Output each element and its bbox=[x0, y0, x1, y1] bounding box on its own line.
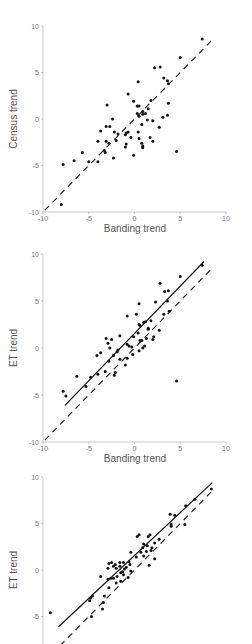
data-point bbox=[173, 514, 176, 517]
data-point bbox=[89, 596, 92, 599]
data-point bbox=[158, 538, 161, 541]
scatter-plot-et-vs-banding-2: ET trend 1050-5 bbox=[0, 0, 252, 644]
data-point bbox=[129, 569, 132, 572]
data-point bbox=[149, 533, 152, 536]
y-tick-label: 5 bbox=[35, 520, 39, 527]
data-point bbox=[115, 582, 118, 585]
data-point bbox=[90, 615, 93, 618]
data-point bbox=[150, 546, 153, 549]
data-point bbox=[139, 551, 142, 554]
data-point bbox=[110, 561, 113, 564]
data-point bbox=[109, 577, 112, 580]
data-point bbox=[106, 567, 109, 570]
one-to-one-dashed-line bbox=[45, 491, 212, 644]
data-point bbox=[128, 563, 131, 566]
data-point bbox=[141, 546, 144, 549]
data-point bbox=[148, 564, 151, 567]
data-point bbox=[115, 567, 118, 570]
data-point bbox=[118, 561, 121, 564]
data-point bbox=[153, 542, 156, 545]
data-point bbox=[119, 580, 122, 583]
data-point bbox=[107, 586, 110, 589]
data-point bbox=[99, 575, 102, 578]
data-point bbox=[184, 504, 187, 507]
data-point bbox=[153, 557, 156, 560]
y-tick-label: 10 bbox=[31, 474, 39, 481]
data-point bbox=[112, 577, 115, 580]
data-point bbox=[101, 608, 104, 611]
data-point bbox=[210, 488, 213, 491]
data-point bbox=[121, 570, 124, 573]
data-point bbox=[102, 601, 105, 604]
data-point bbox=[193, 498, 196, 501]
data-point bbox=[128, 560, 131, 563]
data-point bbox=[123, 568, 126, 571]
data-point bbox=[142, 555, 145, 558]
chart-panel-et-vs-banding-2: ET trend 1050-5 bbox=[0, 0, 252, 644]
data-point bbox=[112, 565, 115, 568]
data-point bbox=[127, 576, 130, 579]
data-point bbox=[170, 525, 173, 528]
data-point bbox=[107, 562, 110, 565]
data-point bbox=[135, 555, 138, 558]
regression-line bbox=[59, 483, 213, 627]
data-point bbox=[106, 578, 109, 581]
data-point bbox=[122, 561, 125, 564]
data-point bbox=[49, 611, 52, 614]
data-point bbox=[129, 551, 132, 554]
y-tick-label: 0 bbox=[35, 567, 39, 574]
data-point bbox=[149, 549, 152, 552]
data-point bbox=[122, 573, 125, 576]
y-axis-label: ET trend bbox=[8, 551, 19, 589]
data-point bbox=[88, 599, 91, 602]
data-point bbox=[103, 595, 106, 598]
data-point bbox=[146, 544, 149, 547]
data-point bbox=[116, 575, 119, 578]
data-point bbox=[169, 513, 172, 516]
data-point bbox=[118, 565, 121, 568]
data-point bbox=[145, 550, 148, 553]
y-tick-label: -5 bbox=[33, 613, 39, 620]
data-point bbox=[183, 523, 186, 526]
data-point bbox=[142, 542, 145, 545]
data-point bbox=[138, 533, 141, 536]
